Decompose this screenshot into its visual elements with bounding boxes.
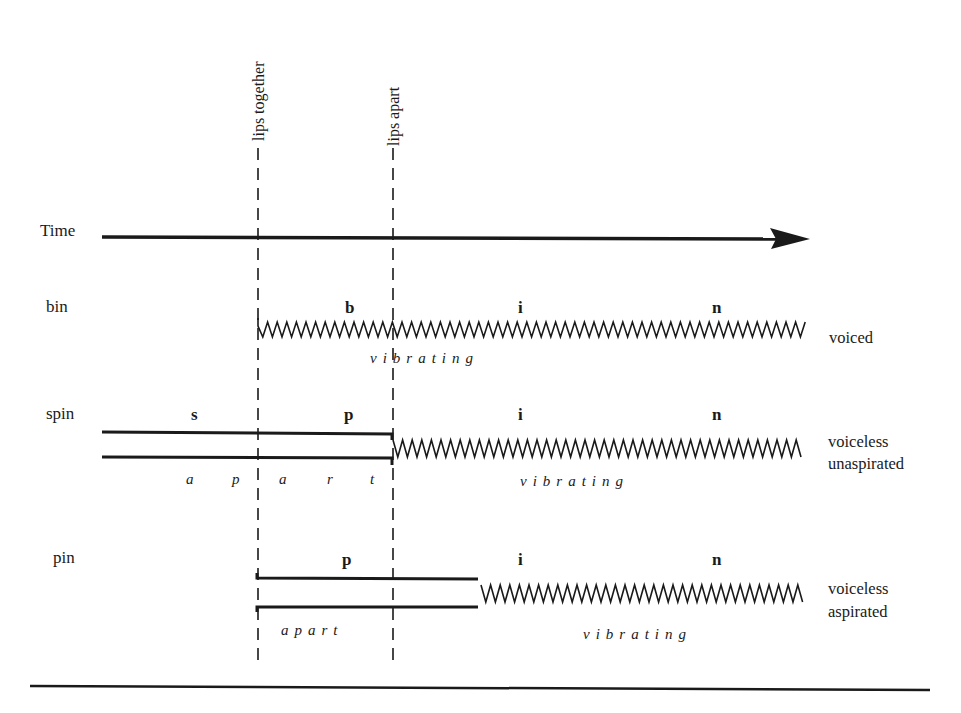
row-word-bin: bin bbox=[46, 297, 68, 316]
description-voiceless: voiceless bbox=[828, 579, 888, 598]
state-label-vibrating: vibrating bbox=[583, 626, 692, 642]
glottis-apart-upper-line-pin bbox=[257, 573, 478, 579]
segment-n: n bbox=[712, 298, 722, 317]
segment-n: n bbox=[712, 405, 722, 424]
time-axis-label: Time bbox=[40, 221, 75, 240]
segment-i: i bbox=[518, 298, 523, 317]
lips-apart-label: lips apart bbox=[385, 86, 403, 146]
glottis-apart-upper-line-spin bbox=[102, 432, 392, 440]
segment-s: s bbox=[191, 405, 198, 424]
description-unaspirated: unaspirated bbox=[828, 454, 905, 473]
voicing-timing-diagram: lips together lips apart Time bin b i n … bbox=[0, 0, 961, 713]
state-label-vibrating: vibrating bbox=[520, 473, 629, 489]
description-voiced: voiced bbox=[829, 328, 874, 347]
time-axis-arrowhead-icon bbox=[770, 228, 810, 249]
vibration-zigzag-pin bbox=[481, 585, 803, 602]
row-word-spin: spin bbox=[46, 404, 75, 423]
segment-i: i bbox=[518, 550, 523, 569]
segment-i: i bbox=[518, 405, 523, 424]
segment-p: p bbox=[344, 405, 353, 424]
glottis-apart-lower-line-pin bbox=[257, 607, 478, 612]
state-label-a: a bbox=[186, 471, 194, 487]
state-label-p: p bbox=[231, 471, 240, 487]
state-label-apart: apart bbox=[281, 622, 344, 638]
vibration-zigzag-spin bbox=[393, 440, 801, 457]
state-label-t: t bbox=[370, 471, 375, 487]
state-label-vibrating: vibrating bbox=[370, 350, 479, 366]
row-word-pin: pin bbox=[53, 548, 75, 567]
segment-b: b bbox=[345, 298, 354, 317]
vibration-zigzag-bin bbox=[258, 318, 805, 337]
segment-n: n bbox=[712, 550, 722, 569]
time-axis-line bbox=[102, 237, 780, 239]
bottom-rule bbox=[30, 686, 930, 690]
state-label-r: r bbox=[327, 471, 333, 487]
segment-p: p bbox=[342, 550, 351, 569]
lips-together-label: lips together bbox=[250, 61, 268, 141]
description-voiceless: voiceless bbox=[828, 432, 888, 451]
state-label-a: a bbox=[279, 471, 287, 487]
description-aspirated: aspirated bbox=[828, 602, 888, 621]
glottis-apart-lower-line-spin bbox=[102, 457, 392, 465]
